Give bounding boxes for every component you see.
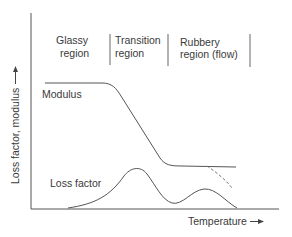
region-label-glassy: Glassy	[56, 34, 89, 46]
region-label-transition-2: region	[115, 47, 144, 59]
y-axis-arrowhead	[13, 66, 18, 72]
y-axis-label: Loss factor, modulus	[9, 88, 21, 184]
x-axis-arrowhead	[258, 219, 264, 224]
y-axis-label-group: Loss factor, modulus	[9, 66, 21, 184]
region-label-rubbery: Rubbery	[180, 36, 220, 48]
region-label-transition: Transition	[115, 34, 161, 46]
x-axis-label: Temperature	[188, 215, 247, 227]
modulus-label: Modulus	[42, 88, 82, 100]
loss-factor-modulus-diagram: Glassy region Transition region Rubbery …	[0, 0, 292, 237]
modulus-flow-dashed	[207, 166, 232, 188]
region-label-glassy-2: region	[60, 47, 89, 59]
region-label-rubbery-2: region (flow)	[180, 48, 238, 60]
loss-factor-label: Loss factor	[50, 177, 102, 189]
